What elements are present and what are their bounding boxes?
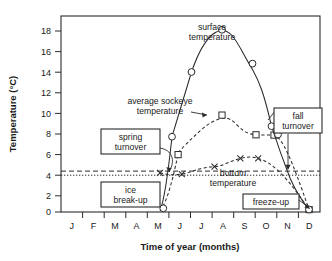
y-tick-label-14: 14 bbox=[41, 68, 51, 78]
x-tick-label-oct: O bbox=[262, 221, 269, 231]
surface-annotation-line2: temperature bbox=[189, 32, 236, 42]
x-axis-title: Time of year (months) bbox=[140, 241, 239, 252]
y-tick-label-4: 4 bbox=[46, 171, 51, 181]
y-tick-label-16: 16 bbox=[41, 47, 51, 57]
x-tick-label-jul: J bbox=[199, 221, 204, 231]
y-tick-label-10: 10 bbox=[41, 109, 51, 119]
x-tick-label-jan: J bbox=[70, 221, 75, 231]
ice-break-up-line1: ice bbox=[125, 185, 136, 195]
freeze-up-label: freeze-up bbox=[253, 197, 290, 207]
x-tick-label-aug: A bbox=[220, 221, 226, 231]
y-axis: 18 16 14 12 10 8 6 4 2 0 bbox=[41, 26, 61, 217]
x-tick-label-feb: F bbox=[91, 221, 97, 231]
sockeye-annotation-line1: average sockeye bbox=[128, 96, 193, 106]
ice-break-up-line2: break-up bbox=[114, 195, 148, 205]
y-tick-label-2: 2 bbox=[46, 191, 51, 201]
surface-marker-may bbox=[160, 205, 167, 212]
surface-marker-jul bbox=[188, 69, 195, 76]
spring-turnover-line2: turnover bbox=[115, 142, 147, 152]
y-axis-title: Temperature (°C) bbox=[7, 76, 18, 152]
y-tick-label-6: 6 bbox=[46, 150, 51, 160]
x-tick-label-mar: M bbox=[111, 221, 119, 231]
x-tick-label-dec: D bbox=[306, 221, 313, 231]
surface-annotation-line1: surface bbox=[198, 22, 226, 32]
sockeye-marker-sep bbox=[253, 132, 259, 138]
x-tick-label-sep: S bbox=[241, 221, 247, 231]
x-axis: J F M A M J J A S O N D bbox=[70, 212, 313, 231]
surface-marker-sep bbox=[249, 60, 256, 67]
bottom-annotation-line1: bottom bbox=[220, 168, 246, 178]
surface-marker-jun bbox=[169, 133, 176, 140]
y-tick-label-8: 8 bbox=[46, 129, 51, 139]
temperature-chart: 18 16 14 12 10 8 6 4 2 0 Temperature (°C… bbox=[0, 0, 332, 261]
sockeye-annotation-line2: temperature bbox=[137, 106, 184, 116]
fall-turnover-line1: fall bbox=[293, 111, 304, 121]
fall-turnover-line2: turnover bbox=[282, 121, 314, 131]
spring-turnover-line1: spring bbox=[119, 132, 143, 142]
x-tick-label-apr: A bbox=[134, 221, 140, 231]
y-tick-label-0: 0 bbox=[46, 207, 51, 217]
bottom-annotation-line2: temperature bbox=[210, 178, 257, 188]
x-tick-label-may: M bbox=[154, 221, 162, 231]
sockeye-marker-aug bbox=[219, 112, 225, 118]
y-tick-label-12: 12 bbox=[41, 88, 51, 98]
ice-break-up-callout: ice break-up bbox=[101, 182, 160, 208]
x-tick-label-jun: J bbox=[177, 221, 182, 231]
y-tick-label-18: 18 bbox=[41, 26, 51, 36]
sockeye-marker-jun bbox=[175, 152, 181, 158]
x-tick-label-nov: N bbox=[284, 221, 291, 231]
